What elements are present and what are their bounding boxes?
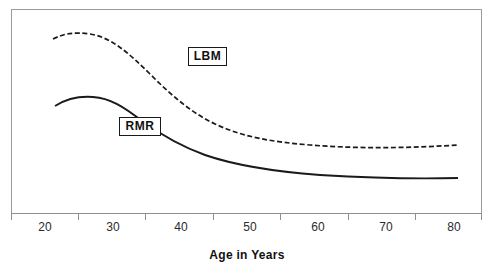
chart-figure: LBM RMR 20 30 40 50 60 70 80 Age in Year… xyxy=(0,0,494,271)
x-tick-label-80: 80 xyxy=(439,220,469,234)
series-label-lbm: LBM xyxy=(188,47,227,66)
x-tick-label-40: 40 xyxy=(166,220,196,234)
series-label-rmr: RMR xyxy=(119,117,161,136)
x-tick-label-60: 60 xyxy=(303,220,333,234)
x-axis-title: Age in Years xyxy=(0,248,494,262)
x-tick-label-20: 20 xyxy=(30,220,60,234)
x-tick-label-70: 70 xyxy=(371,220,401,234)
plot-area-frame xyxy=(11,9,482,214)
x-tick-label-30: 30 xyxy=(98,220,128,234)
x-tick-label-50: 50 xyxy=(235,220,265,234)
x-axis-ticks xyxy=(12,213,482,220)
